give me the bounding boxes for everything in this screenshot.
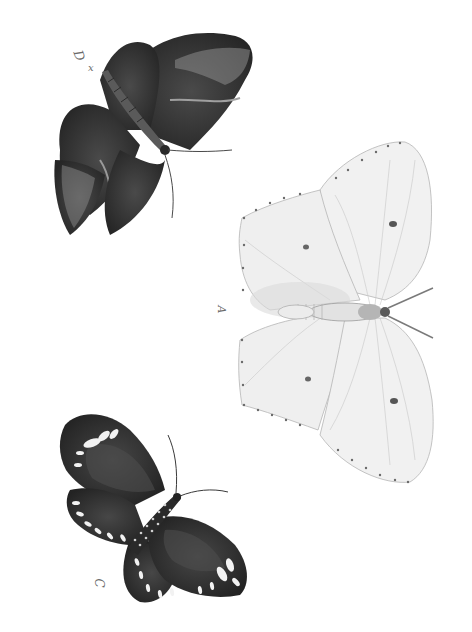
illustration-plate: D x A C [0, 0, 472, 632]
mark-specimen-d: x [88, 62, 94, 73]
label-specimen-c: C [92, 578, 106, 587]
specimen-d [54, 33, 252, 235]
label-specimen-a: A [215, 306, 228, 314]
specimen-a [239, 142, 433, 483]
specimen-c [60, 414, 247, 602]
butterfly-plate-svg [0, 0, 472, 632]
